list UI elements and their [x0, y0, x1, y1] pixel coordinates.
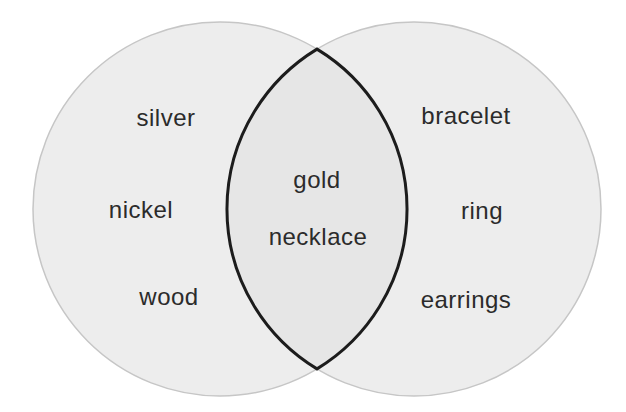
label-silver: silver — [136, 104, 195, 132]
label-gold: gold — [293, 166, 340, 194]
label-ring: ring — [461, 197, 503, 225]
label-nickel: nickel — [109, 196, 173, 224]
label-necklace: necklace — [269, 223, 368, 251]
venn-diagram: silver nickel wood gold necklace bracele… — [0, 0, 626, 412]
label-wood: wood — [139, 283, 198, 311]
label-earrings: earrings — [421, 286, 512, 314]
venn-shapes — [0, 0, 626, 412]
label-bracelet: bracelet — [421, 102, 510, 130]
